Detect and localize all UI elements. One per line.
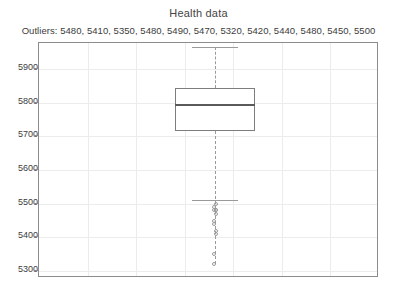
whisker-cap-upper [192, 47, 238, 48]
y-axis-tick-label: 5800 [4, 96, 38, 106]
outlier-point [214, 229, 218, 233]
gridline-vertical [136, 43, 137, 276]
gridline-horizontal [39, 69, 377, 70]
y-axis-tick-label: 5900 [4, 62, 38, 72]
gridline-horizontal [39, 170, 377, 171]
y-axis: 5900580057005600550054005300 [0, 0, 38, 291]
box-iqr [175, 88, 255, 132]
boxplot-chart: Health data Outliers: 5480, 5410, 5350, … [0, 0, 397, 291]
y-axis-tick-label: 5300 [4, 264, 38, 274]
whisker-lower-line [215, 131, 216, 264]
gridline-vertical [233, 43, 234, 276]
gridline-horizontal [39, 237, 377, 238]
gridline-horizontal [39, 136, 377, 137]
y-axis-tick-label: 5400 [4, 230, 38, 240]
y-axis-tick-label: 5700 [4, 129, 38, 139]
whisker-upper-line [215, 47, 216, 87]
outlier-point [212, 262, 216, 266]
gridline-horizontal [39, 271, 377, 272]
gridline-horizontal [39, 204, 377, 205]
gridline-vertical [88, 43, 89, 276]
gridline-vertical [330, 43, 331, 276]
chart-title: Health data [0, 7, 397, 19]
y-axis-tick-label: 5600 [4, 163, 38, 173]
gridline-vertical [185, 43, 186, 276]
plot-inner [39, 43, 377, 276]
gridline-vertical [282, 43, 283, 276]
chart-subtitle-outliers: Outliers: 5480, 5410, 5350, 5480, 5490, … [0, 25, 397, 36]
plot-area [38, 42, 378, 277]
y-axis-tick-label: 5500 [4, 197, 38, 207]
outlier-point [214, 202, 218, 206]
median-line [175, 104, 255, 106]
outlier-point [214, 212, 218, 216]
outlier-point [212, 219, 216, 223]
